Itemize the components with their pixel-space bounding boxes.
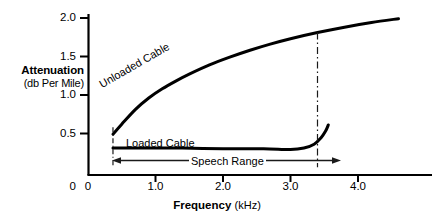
x-axis-title-sub: (kHz) (235, 199, 261, 211)
x-tick-label-0: 0 (73, 180, 103, 192)
attenuation-frequency-chart: Attenuation (db Per Mile) 2.0 1.5 1.0 0.… (0, 0, 434, 220)
y-tick-label-0-5: 0.5 (42, 127, 76, 139)
y-tick-label-1-5: 1.5 (42, 50, 76, 62)
y-tick-label-0: 0 (42, 180, 76, 192)
unloaded-cable-curve (113, 19, 399, 135)
x-tick-label-1-0: 1.0 (140, 180, 171, 192)
x-tick-label-3-0: 3.0 (275, 180, 306, 192)
x-tick-label-4-0: 4.0 (343, 180, 374, 192)
x-axis-title: Frequency (kHz) (0, 199, 434, 211)
y-axis-title-main: Attenuation (4, 64, 84, 77)
y-tick-label-1-0: 1.0 (42, 88, 76, 100)
x-tick-label-2-0: 2.0 (208, 180, 239, 192)
x-axis-title-main: Frequency (173, 199, 231, 211)
loaded-cable-label: Loaded Cable (126, 137, 195, 149)
speech-range-label: Speech Range (189, 155, 266, 167)
y-tick-label-2-0: 2.0 (42, 11, 76, 23)
speech-range-arrow-head-right (332, 157, 341, 163)
y-axis-title: Attenuation (db Per Mile) (4, 64, 84, 90)
